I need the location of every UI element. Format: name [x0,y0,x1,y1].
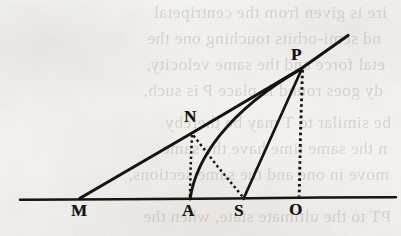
point-label-M: M [71,202,87,219]
ray-M-to-P-extended [80,36,349,199]
geometry-figure [0,0,401,236]
point-label-N: N [184,108,196,125]
scanned-page: ire is given from the centripetal nd sem… [0,0,401,236]
point-label-A: A [182,202,194,219]
baseline-MO [20,197,396,200]
point-label-O: O [289,201,302,218]
ordinate-P-to-O [299,70,302,197]
point-label-S: S [234,202,243,219]
point-label-P: P [291,46,301,63]
curve-A-to-P [190,69,302,200]
